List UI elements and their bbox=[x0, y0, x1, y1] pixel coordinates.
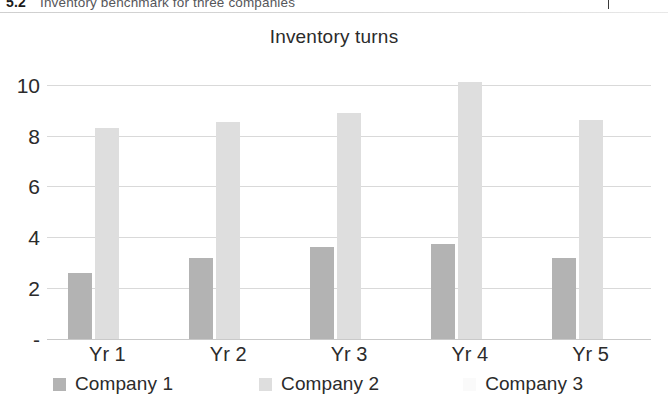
figure-caption-number: 5.2 bbox=[0, 0, 26, 10]
bar bbox=[552, 258, 576, 339]
bar bbox=[310, 247, 334, 339]
legend-swatch-icon bbox=[53, 378, 66, 391]
bar bbox=[458, 82, 482, 339]
x-axis-tick-label: Yr 2 bbox=[168, 343, 289, 366]
bar bbox=[68, 273, 92, 339]
y-axis-tick-label: 2 bbox=[28, 278, 40, 299]
x-axis-tick-label: Yr 3 bbox=[289, 343, 410, 366]
chart-legend: Company 1Company 2Company 3 bbox=[47, 371, 651, 397]
bar-groups bbox=[47, 72, 651, 339]
legend-item[interactable]: Company 3 bbox=[463, 373, 583, 395]
bar-group bbox=[47, 72, 168, 339]
bar-group bbox=[289, 72, 410, 339]
legend-item[interactable]: Company 1 bbox=[53, 373, 173, 395]
figure-caption-text: Inventory benchmark for three companies bbox=[40, 0, 295, 10]
bar bbox=[337, 113, 361, 339]
bar-group bbox=[409, 72, 530, 339]
legend-swatch-icon bbox=[259, 378, 272, 391]
legend-label: Company 3 bbox=[485, 373, 583, 395]
bar bbox=[95, 128, 119, 339]
legend-swatch-icon bbox=[463, 378, 476, 391]
y-axis-tick-label: 6 bbox=[28, 176, 40, 197]
x-axis-tick-labels: Yr 1Yr 2Yr 3Yr 4Yr 5 bbox=[47, 343, 651, 366]
y-axis-tick-label: - bbox=[33, 329, 40, 350]
legend-item[interactable]: Company 2 bbox=[259, 373, 379, 395]
bar bbox=[216, 122, 240, 339]
inventory-turns-chart: Inventory turns -246810 Yr 1Yr 2Yr 3Yr 4… bbox=[0, 13, 668, 393]
legend-label: Company 1 bbox=[75, 373, 173, 395]
y-axis-tick-label: 4 bbox=[28, 227, 40, 248]
x-axis-tick-label: Yr 4 bbox=[409, 343, 530, 366]
bar-group bbox=[168, 72, 289, 339]
bar bbox=[579, 120, 603, 339]
x-axis-tick-label: Yr 5 bbox=[530, 343, 651, 366]
bar bbox=[189, 258, 213, 339]
caption-tick-mark bbox=[608, 0, 609, 9]
chart-title: Inventory turns bbox=[0, 26, 668, 48]
y-axis-tick-label: 8 bbox=[28, 125, 40, 146]
bar bbox=[431, 244, 455, 339]
x-axis-tick-label: Yr 1 bbox=[47, 343, 168, 366]
y-axis: -246810 bbox=[0, 72, 40, 339]
y-axis-tick-label: 10 bbox=[17, 74, 40, 95]
bar-group bbox=[530, 72, 651, 339]
legend-label: Company 2 bbox=[281, 373, 379, 395]
axis-baseline bbox=[47, 339, 651, 340]
